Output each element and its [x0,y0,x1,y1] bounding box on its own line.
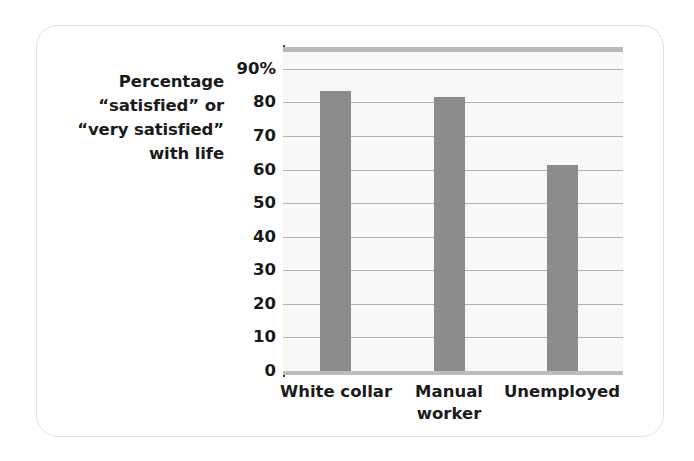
y-tick-label-20: 20 [218,296,276,313]
bar-chart: Percentage “satisfied” or “very satisfie… [0,0,694,461]
bar-manual-worker [434,97,465,371]
y-axis-ticks: 0102030405060708090% [216,47,276,375]
plot-area [283,47,623,375]
x-label-line-2: worker [389,403,509,425]
x-axis-category-labels: White collarManualworkerUnemployed [283,381,623,437]
y-tick-label-90: 90% [218,61,276,78]
y-axis-label-line-1: Percentage [66,70,224,94]
y-tick-label-40: 40 [218,229,276,246]
y-tick-label-60: 60 [218,162,276,179]
bar-white-collar [320,91,351,371]
y-axis-label: Percentage “satisfied” or “very satisfie… [66,70,224,166]
y-tick-label-50: 50 [218,195,276,212]
x-label-line-1: Unemployed [502,381,622,403]
y-tick-label-10: 10 [218,329,276,346]
plot-baseline [283,371,623,375]
y-tick-label-30: 30 [218,262,276,279]
y-axis-label-line-4: with life [66,142,224,166]
plot-top-rule [283,47,623,52]
y-axis-label-line-2: “satisfied” or [66,94,224,118]
y-axis-label-line-3: “very satisfied” [66,118,224,142]
bar-unemployed [547,165,578,372]
x-label-unemployed: Unemployed [502,381,622,403]
x-label-white-collar: White collar [276,381,396,403]
x-label-line-1: Manual [389,381,509,403]
x-label-manual-worker: Manualworker [389,381,509,425]
gridline-90 [283,69,623,70]
y-tick-label-0: 0 [218,363,276,380]
x-label-line-1: White collar [276,381,396,403]
y-tick-label-80: 80 [218,94,276,111]
y-tick-label-70: 70 [218,128,276,145]
